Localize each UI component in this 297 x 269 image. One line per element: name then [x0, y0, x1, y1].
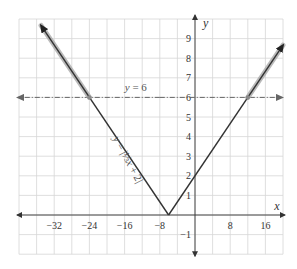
x-tick-label: 8	[228, 220, 233, 231]
x-tick-label: −24	[82, 220, 98, 231]
y-tick-label: 3	[186, 151, 191, 162]
abs-function-left-branch	[41, 25, 169, 215]
y-tick-label: 8	[186, 53, 191, 64]
intersection-point	[246, 95, 250, 99]
abs-function-right-branch	[169, 45, 283, 215]
intersection-point	[87, 95, 91, 99]
x-tick-label: 16	[260, 220, 270, 231]
x-tick-label: −16	[117, 220, 133, 231]
y-tick-label: 5	[186, 112, 191, 123]
series-group	[18, 25, 283, 215]
y-tick-label: 9	[186, 33, 191, 44]
absolute-value-graph: −32−24−16−8816−1123456789xy y = 6y = |⅓x…	[0, 0, 297, 269]
y-tick-label: 4	[186, 131, 191, 142]
x-tick-label: −8	[154, 220, 165, 231]
y-axis-label: y	[202, 16, 209, 30]
label-y-equals-6: y = 6	[124, 81, 148, 93]
y-tick-label: 2	[186, 170, 191, 181]
x-axis-label: x	[273, 199, 280, 213]
y-tick-label: −1	[180, 229, 191, 240]
label-abs-equation: y = |⅓x + 2|	[111, 133, 146, 185]
y-tick-label: 7	[186, 72, 191, 83]
x-tick-label: −32	[46, 220, 62, 231]
label-abs-equation-text: y = |⅓x + 2|	[111, 133, 146, 185]
y-tick-label: 1	[186, 190, 191, 201]
